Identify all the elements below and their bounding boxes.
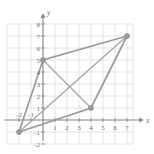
x-tick-label: 2 xyxy=(65,124,69,132)
x-tick-label: 4 xyxy=(89,124,93,132)
vertex-d xyxy=(88,105,93,110)
vertex-a xyxy=(16,129,21,134)
x-tick-label: 7 xyxy=(125,124,129,132)
y-tick-label: 6 xyxy=(37,45,41,53)
vertex-b xyxy=(40,57,45,62)
y-tick-label: 1 xyxy=(37,105,41,113)
y-tick-label: 5 xyxy=(37,57,41,65)
x-axis-label: x xyxy=(145,116,150,125)
y-tick-label: 4 xyxy=(37,69,41,77)
y-tick-label: 7 xyxy=(37,33,41,41)
y-tick-label: -2 xyxy=(34,141,40,149)
x-tick-label: 3 xyxy=(77,124,81,132)
y-tick-label: 8 xyxy=(37,21,41,29)
x-tick-label: -1 xyxy=(28,111,34,119)
x-tick-label: 5 xyxy=(101,124,105,132)
y-tick-label: 2 xyxy=(37,93,41,101)
x-tick-label: -2 xyxy=(16,111,22,119)
coordinate-plane-figure: -2-11234567-2-112345678 x y xyxy=(0,0,154,154)
y-axis-arrow xyxy=(40,13,45,18)
x-axis-arrow xyxy=(139,117,144,122)
axes xyxy=(4,13,144,141)
y-tick-label: -1 xyxy=(34,129,40,137)
x-tick-label: 6 xyxy=(113,124,117,132)
y-axis-label: y xyxy=(46,8,51,17)
vertex-c xyxy=(124,33,129,38)
plot-canvas: -2-11234567-2-112345678 x y xyxy=(0,0,154,154)
y-tick-label: 3 xyxy=(37,81,41,89)
x-tick-label: 1 xyxy=(53,124,57,132)
